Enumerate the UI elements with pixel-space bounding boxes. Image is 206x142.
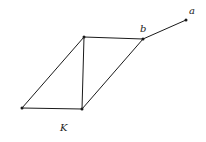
label-k: K (59, 122, 68, 133)
edge-bottomleft-bottomright (22, 108, 82, 109)
vertex-bottom-left (21, 107, 24, 110)
vertex-b (142, 38, 145, 41)
edge-bottomright-b (82, 39, 143, 109)
label-a: a (189, 5, 195, 16)
vertex-bottom-right (81, 108, 84, 111)
graph-diagram: a b K (0, 0, 206, 142)
edge-topleft-bottomright (82, 37, 84, 109)
edge-topleft-bottomleft (22, 37, 84, 108)
vertex-top-left (83, 36, 86, 39)
edge-topleft-b (84, 37, 143, 39)
vertex-a (185, 19, 188, 22)
label-b: b (140, 23, 146, 34)
edge-b-a (143, 20, 186, 39)
